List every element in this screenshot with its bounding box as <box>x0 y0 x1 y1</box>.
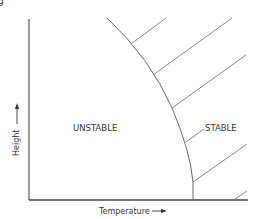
unstable-region-label: UNSTABLE <box>73 123 117 133</box>
x-axis-arrow-icon <box>161 209 167 213</box>
y-axis-label: Height <box>12 130 21 156</box>
corner-mark: g <box>0 0 4 6</box>
y-axis-arrow-icon <box>15 103 19 109</box>
y-axis-label-group: Height <box>12 130 21 156</box>
x-axis-label: Temperature <box>98 207 150 216</box>
stable-hatching <box>131 18 247 199</box>
stability-diagram: g UNSTABLE STABLE Height Temperature <box>0 0 262 219</box>
stability-boundary-curve <box>107 18 193 200</box>
stable-region-label: STABLE <box>205 123 237 133</box>
